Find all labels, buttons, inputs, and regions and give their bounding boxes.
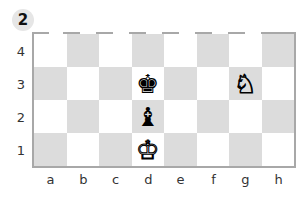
square-f3: [197, 67, 230, 100]
square-e4: [164, 34, 197, 67]
square-b4: [67, 34, 100, 67]
white-king-icon: ♔: [136, 137, 159, 163]
black-king-icon: ♚: [136, 71, 159, 97]
file-label-h: h: [262, 172, 295, 187]
square-e1: [164, 133, 197, 166]
square-a1: [34, 133, 67, 166]
square-g2: [229, 100, 262, 133]
square-b1: [67, 133, 100, 166]
square-d4: [132, 34, 165, 67]
file-label-f: f: [197, 172, 230, 187]
square-f4: [197, 34, 230, 67]
diagram-number-badge: 2: [12, 9, 34, 31]
file-label-d: d: [132, 172, 165, 187]
rank-label-4: 4: [14, 44, 28, 59]
square-d3: ♚: [132, 67, 165, 100]
square-e3: [164, 67, 197, 100]
square-g1: [229, 133, 262, 166]
white-knight-icon: ♘: [234, 71, 257, 97]
square-c2: [99, 100, 132, 133]
square-c1: [99, 133, 132, 166]
square-d1: ♔: [132, 133, 165, 166]
rank-label-1: 1: [14, 143, 28, 158]
file-label-e: e: [164, 172, 197, 187]
square-h3: [262, 67, 295, 100]
square-a3: [34, 67, 67, 100]
square-c4: [99, 34, 132, 67]
square-b2: [67, 100, 100, 133]
square-h1: [262, 133, 295, 166]
black-bishop-icon: ♝: [136, 104, 159, 130]
square-e2: [164, 100, 197, 133]
rank-label-2: 2: [14, 110, 28, 125]
chess-board: ♚♘♝♔: [34, 34, 294, 166]
square-b3: [67, 67, 100, 100]
file-label-b: b: [67, 172, 100, 187]
square-d2: ♝: [132, 100, 165, 133]
square-g4: [229, 34, 262, 67]
file-label-a: a: [34, 172, 67, 187]
square-h4: [262, 34, 295, 67]
square-f1: [197, 133, 230, 166]
rank-label-3: 3: [14, 77, 28, 92]
square-g3: ♘: [229, 67, 262, 100]
square-f2: [197, 100, 230, 133]
square-c3: [99, 67, 132, 100]
file-label-c: c: [99, 172, 132, 187]
square-a2: [34, 100, 67, 133]
square-h2: [262, 100, 295, 133]
file-label-g: g: [229, 172, 262, 187]
square-a4: [34, 34, 67, 67]
